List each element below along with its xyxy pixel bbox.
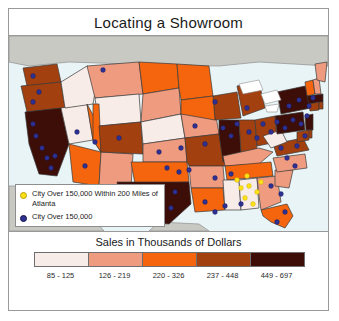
state-MT	[87, 62, 143, 98]
scale-swatch	[142, 252, 197, 267]
scale-swatch	[250, 252, 305, 267]
state-SC	[275, 170, 293, 188]
scale-bin-label: 237 - 448	[196, 271, 250, 280]
state-CA	[25, 108, 69, 176]
city-legend-label: City Over 150,000 Within 200 Miles of At…	[32, 189, 159, 208]
scale-swatch	[196, 252, 251, 267]
scale-bin-label: 126 - 219	[88, 271, 142, 280]
page-title: Locating a Showroom	[94, 14, 243, 31]
title-bar: Locating a Showroom	[9, 9, 328, 36]
state-ME	[315, 62, 327, 82]
state-OR	[21, 82, 65, 112]
scale-bin: 85 - 125	[34, 252, 88, 280]
city-legend-item: City Over 150,000	[20, 212, 159, 222]
swatch-row: 85 - 125 126 - 219 220 - 326 237 - 448 4…	[9, 252, 328, 280]
chart-frame: Locating a Showroom	[8, 8, 329, 311]
blue-dot-icon	[20, 215, 27, 222]
state-WY	[95, 94, 141, 126]
state-MN	[177, 64, 213, 100]
color-scale-legend: Sales in Thousands of Dollars 85 - 125 1…	[9, 231, 328, 285]
state-NC	[273, 154, 307, 172]
state-WI	[213, 92, 241, 120]
state-AR	[189, 166, 225, 188]
city-legend-box: City Over 150,000 Within 200 Miles of At…	[15, 184, 165, 227]
yellow-dot-icon	[20, 192, 27, 199]
state-LA	[191, 188, 225, 212]
scale-bin: 449 - 697	[250, 252, 304, 280]
city-legend-item: City Over 150,000 Within 200 Miles of At…	[20, 189, 159, 208]
scale-bin-label: 85 - 125	[34, 271, 88, 280]
map-area: City Over 150,000 Within 200 Miles of At…	[9, 36, 328, 231]
scale-swatch	[34, 252, 89, 267]
city-legend-label: City Over 150,000	[32, 212, 92, 222]
scale-bin-label: 449 - 697	[250, 271, 304, 280]
state-MO	[185, 134, 225, 166]
state-RI	[319, 102, 323, 109]
state-IN	[239, 120, 257, 152]
scale-bin: 126 - 219	[88, 252, 142, 280]
scale-bin: 237 - 448	[196, 252, 250, 280]
scale-bin: 220 - 326	[142, 252, 196, 280]
scale-bin-label: 220 - 326	[142, 271, 196, 280]
scale-title: Sales in Thousands of Dollars	[9, 236, 328, 248]
scale-swatch	[88, 252, 143, 267]
